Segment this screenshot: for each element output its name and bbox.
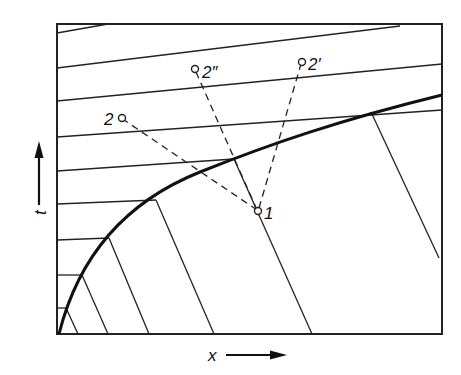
plot-frame: [57, 24, 442, 334]
upper-characteristics: [57, 24, 442, 308]
t-axis-arrow-icon: [35, 141, 44, 205]
boundary-curve: [59, 95, 442, 334]
point-2p-marker: [299, 59, 306, 66]
t-axis-label: t: [31, 209, 50, 215]
x-axis-arrow-icon: [226, 351, 287, 360]
characteristics-diagram: 1 2 2″ 2′ t x: [0, 0, 461, 375]
point-2p-label: 2′: [307, 55, 321, 74]
point-1-marker: [255, 208, 262, 215]
point-2pp-marker: [192, 66, 199, 73]
point-2-label: 2: [103, 110, 114, 129]
point-2pp-label: 2″: [201, 63, 218, 82]
point-1-label: 1: [264, 204, 273, 223]
point-2-marker: [119, 115, 126, 122]
x-axis-label: x: [207, 346, 217, 365]
